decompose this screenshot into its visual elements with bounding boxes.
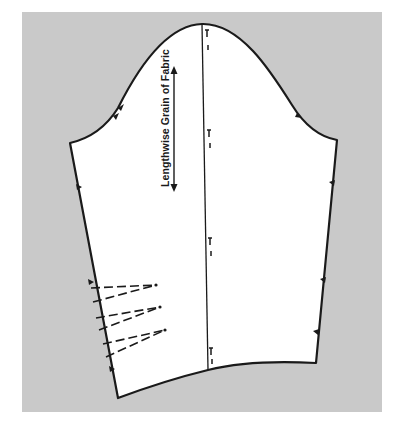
grain-label: Lengthwise Grain of Fabric (159, 49, 171, 187)
sleeve-pattern-diagram (0, 0, 404, 446)
notch-icon (88, 279, 94, 285)
